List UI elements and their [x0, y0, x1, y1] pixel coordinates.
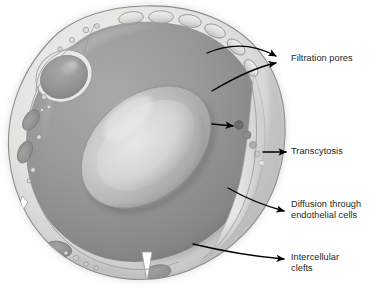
label-clefts-line-2: clefts	[291, 263, 313, 273]
capillary-diagram-figure: Filtration pores Transcytosis Diffusion …	[0, 0, 381, 293]
label-intercellular-clefts: Intercellularclefts	[291, 252, 339, 273]
label-diffusion-line-2: endothelial cells	[291, 210, 357, 220]
label-clefts-line-1: Intercellular	[291, 252, 339, 262]
label-diffusion-through-endothelial-cells: Diffusion throughendothelial cells	[291, 199, 361, 220]
label-diffusion-line-1: Diffusion through	[291, 199, 361, 209]
label-transcytosis: Transcytosis	[291, 146, 343, 157]
label-filtration-pores: Filtration pores	[291, 53, 353, 64]
